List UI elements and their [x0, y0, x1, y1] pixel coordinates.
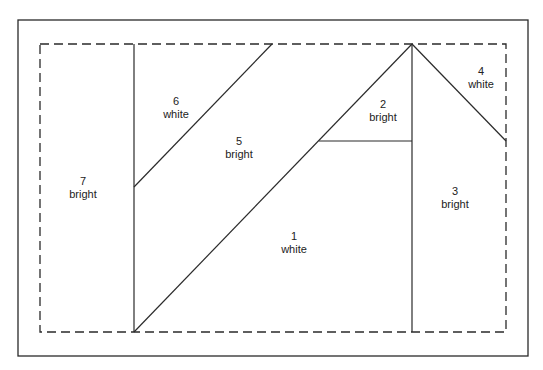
region-6-label: 6 white	[162, 95, 189, 120]
region-2-label: 2 bright	[369, 98, 397, 123]
region-label: bright	[369, 111, 397, 123]
divider-diagonal-right	[412, 44, 506, 141]
region-1-label: 1 white	[280, 230, 307, 255]
region-label: bright	[69, 188, 97, 200]
region-label: white	[467, 78, 494, 90]
region-label: white	[162, 108, 189, 120]
divider-diagonal-upper	[134, 44, 272, 187]
region-label: white	[280, 243, 307, 255]
region-diagram: 1 white 2 bright 3 bright 4 white 5 brig…	[0, 0, 543, 370]
region-3-label: 3 bright	[441, 185, 469, 210]
divider-diagonal-long	[134, 44, 412, 332]
region-label: bright	[225, 148, 253, 160]
region-5-label: 5 bright	[225, 135, 253, 160]
region-7-label: 7 bright	[69, 175, 97, 200]
region-number: 1	[291, 230, 297, 242]
region-number: 6	[173, 95, 179, 107]
region-number: 5	[236, 135, 242, 147]
region-number: 2	[380, 98, 386, 110]
region-number: 4	[478, 65, 484, 77]
region-label: bright	[441, 198, 469, 210]
region-4-label: 4 white	[467, 65, 494, 90]
region-number: 7	[80, 175, 86, 187]
region-number: 3	[452, 185, 458, 197]
